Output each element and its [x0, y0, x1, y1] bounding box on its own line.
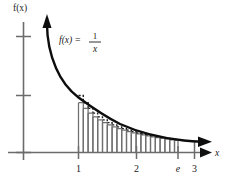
- inscribed-rect-3: [88, 113, 93, 152]
- x-tick-label-3: 3: [192, 163, 197, 174]
- inscribed-rect-2: [83, 108, 88, 152]
- formula-denominator: x: [92, 44, 98, 54]
- x-tick-label-1: 1: [76, 163, 81, 174]
- inscribed-rect-4: [93, 117, 98, 153]
- x-tick-label-e: e: [176, 163, 181, 174]
- inscribed-rect-11: [127, 132, 132, 153]
- figure-container: f(x) x 1 2 e 3 f(x) = 1 x: [0, 0, 226, 177]
- formula-numerator: 1: [93, 31, 98, 41]
- inscribed-rect-7: [107, 125, 112, 153]
- inscribed-rect-8: [112, 127, 117, 153]
- function-plot: f(x) x 1 2 e 3 f(x) = 1 x: [0, 0, 226, 177]
- inscribed-rect-9: [117, 129, 122, 153]
- formula-lhs: f(x) =: [59, 35, 81, 46]
- inscribed-rect-20: [170, 140, 175, 153]
- inscribed-rect-6: [103, 123, 108, 153]
- x-axis-label: x: [214, 148, 220, 158]
- inscribed-rect-17: [155, 138, 160, 153]
- inscribed-rect-21: [175, 140, 179, 152]
- function-formula-annotation: f(x) = 1 x: [59, 31, 101, 54]
- curve-arrowhead-right: [198, 137, 212, 148]
- x-axis-arrowhead: [200, 148, 212, 158]
- inscribed-rect-10: [122, 130, 127, 152]
- inscribed-rect-12: [131, 133, 136, 153]
- y-axis-label: f(x): [13, 3, 27, 14]
- inscribed-rect-15: [146, 136, 151, 153]
- x-tick-label-2: 2: [134, 163, 139, 174]
- inscribed-rect-18: [160, 138, 165, 152]
- inscribed-rect-14: [141, 135, 146, 153]
- curve-arrowhead-top: [43, 14, 52, 28]
- inscribed-rect-1: [79, 103, 84, 153]
- inscribed-rect-16: [151, 137, 156, 153]
- inscribed-rect-5: [98, 120, 103, 153]
- curve-group: [43, 14, 213, 147]
- inscribed-rect-19: [165, 139, 170, 152]
- dashed-rect-3: [88, 108, 93, 113]
